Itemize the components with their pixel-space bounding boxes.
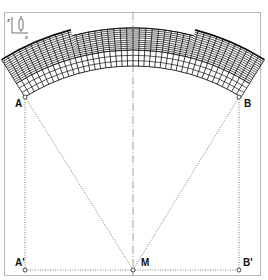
arch-diagram [0,0,268,280]
label-point-a-prime: A' [15,258,25,268]
x-axis-label: x [25,34,28,40]
label-point-b-prime: B' [243,258,253,268]
point-a [23,95,27,99]
point-b-prime [237,268,241,272]
label-point-m: M [141,258,149,268]
point-a-prime [23,268,27,272]
construction-points [23,95,241,272]
axis-icon [12,16,28,33]
label-point-a: A [15,99,22,109]
point-b [237,95,241,99]
point-m [131,268,135,272]
capsule-icon [19,19,23,30]
z-axis-label: z [7,17,10,23]
label-point-b: B [244,99,251,109]
